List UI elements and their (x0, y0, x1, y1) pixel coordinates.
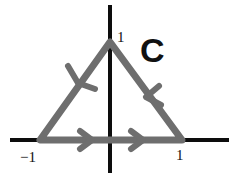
contour-integral-diagram: 1 −1 1 C (0, 0, 242, 179)
apex-label: 1 (117, 30, 125, 45)
right-vertex-label: 1 (176, 148, 184, 163)
contour-name-label: C (140, 33, 165, 67)
left-vertex-label: −1 (20, 150, 36, 165)
diagram-canvas (0, 0, 242, 179)
